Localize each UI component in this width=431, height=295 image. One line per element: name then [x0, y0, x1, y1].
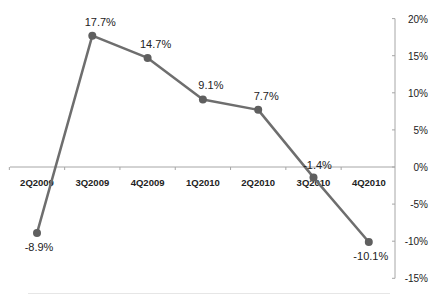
data-point-marker	[88, 32, 96, 40]
data-label: 14.7%	[140, 38, 171, 50]
x-tick-label: 2Q2010	[241, 177, 275, 188]
y-tick-label: -15%	[405, 273, 428, 284]
data-point-marker	[199, 95, 207, 103]
series-line	[37, 36, 369, 242]
y-tick-label: 10%	[408, 88, 428, 99]
x-tick-label: 3Q2009	[75, 177, 109, 188]
data-labels: -8.9%17.7%14.7%9.1%7.7%-1.4%-10.1%	[25, 16, 389, 262]
data-label: -1.4%	[303, 159, 332, 171]
data-point-marker	[310, 173, 318, 181]
data-series	[33, 32, 373, 246]
chart-axes	[9, 19, 395, 279]
data-label: 9.1%	[198, 79, 223, 91]
data-point-marker	[254, 106, 262, 114]
footer-divider	[28, 293, 390, 294]
data-point-marker	[365, 238, 373, 246]
x-axis-labels: 2Q20093Q20094Q20091Q20102Q20103Q20104Q20…	[20, 177, 386, 188]
data-point-marker	[33, 229, 41, 237]
line-chart: 2Q20093Q20094Q20091Q20102Q20103Q20104Q20…	[0, 0, 431, 295]
x-tick-label: 4Q2010	[352, 177, 386, 188]
x-tick-label: 1Q2010	[186, 177, 220, 188]
y-axis-labels: 20%15%10%5%0%-5%-10%-15%	[405, 14, 428, 285]
y-tick-label: 0%	[414, 162, 429, 173]
x-tick-label: 4Q2009	[131, 177, 165, 188]
y-tick-label: 15%	[408, 51, 428, 62]
data-point-marker	[144, 54, 152, 62]
data-label: 17.7%	[85, 16, 116, 28]
data-label: -8.9%	[25, 241, 54, 253]
data-label: 7.7%	[254, 90, 279, 102]
y-tick-label: 5%	[414, 125, 429, 136]
y-tick-label: 20%	[408, 14, 428, 25]
data-label: -10.1%	[353, 250, 388, 262]
y-tick-label: -5%	[410, 199, 428, 210]
y-tick-label: -10%	[405, 236, 428, 247]
